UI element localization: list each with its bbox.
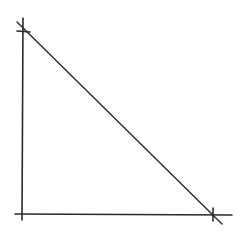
diagonal-line xyxy=(17,22,222,224)
triangle-sketch xyxy=(0,0,245,234)
y-intercept-mark xyxy=(17,31,30,32)
vertical-axis xyxy=(22,18,23,220)
horizontal-axis xyxy=(15,214,232,215)
